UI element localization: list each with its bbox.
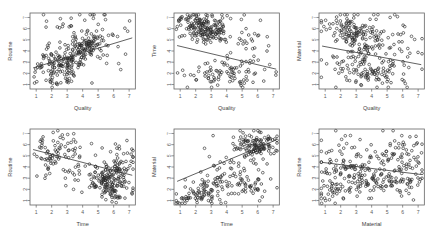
y-tick-label: 6 xyxy=(22,143,28,146)
y-tick-label: 5 xyxy=(311,38,317,41)
plot-bottom-left: 12345671234567TimeRoutine xyxy=(0,122,144,238)
plot-top-right: 12345671234567QualityMaterial xyxy=(289,6,433,122)
y-tick-label: 4 xyxy=(22,165,28,168)
plot-top-middle: 12345671234567QualityTime xyxy=(144,6,288,122)
data-points xyxy=(320,13,423,88)
plot-top-left: 12345671234567QualityRoutine xyxy=(0,6,144,122)
data-points xyxy=(175,129,278,204)
x-tick-label: 7 xyxy=(272,93,275,99)
x-tick-label: 5 xyxy=(97,93,100,99)
x-tick-label: 1 xyxy=(323,209,326,215)
x-tick-label: 1 xyxy=(179,209,182,215)
x-tick-label: 7 xyxy=(272,209,275,215)
x-tick-label: 5 xyxy=(241,209,244,215)
x-tick-label: 6 xyxy=(257,209,260,215)
y-tick-label: 5 xyxy=(167,154,173,157)
x-tick-label: 4 xyxy=(370,209,373,215)
x-tick-label: 2 xyxy=(339,93,342,99)
x-tick-label: 4 xyxy=(226,209,229,215)
y-tick-label: 6 xyxy=(167,143,173,146)
y-axis-title: Routine xyxy=(7,41,13,60)
x-tick-label: 4 xyxy=(370,93,373,99)
x-tick-label: 6 xyxy=(112,93,115,99)
y-tick-label: 7 xyxy=(311,16,317,19)
panel-top-middle: 12345671234567QualityTime xyxy=(144,6,288,122)
regression-line xyxy=(177,140,276,181)
y-tick-label: 5 xyxy=(311,154,317,157)
x-tick-label: 5 xyxy=(385,93,388,99)
y-tick-label: 1 xyxy=(311,199,317,202)
y-tick-label: 2 xyxy=(167,72,173,75)
y-tick-label: 2 xyxy=(311,72,317,75)
x-axis-title: Material xyxy=(361,221,381,227)
y-tick-label: 1 xyxy=(167,199,173,202)
data-points xyxy=(175,13,278,88)
y-tick-label: 6 xyxy=(311,27,317,30)
y-tick-label: 2 xyxy=(167,188,173,191)
x-tick-label: 6 xyxy=(401,93,404,99)
y-tick-label: 2 xyxy=(22,72,28,75)
y-tick-label: 7 xyxy=(167,16,173,19)
x-tick-label: 4 xyxy=(81,209,84,215)
y-tick-label: 6 xyxy=(22,27,28,30)
x-tick-label: 2 xyxy=(339,209,342,215)
plot-frame xyxy=(174,129,279,205)
y-tick-label: 1 xyxy=(22,83,28,86)
plot-frame xyxy=(319,13,424,89)
x-tick-label: 3 xyxy=(210,93,213,99)
x-tick-label: 1 xyxy=(179,93,182,99)
panel-bottom-middle: 12345671234567TimeMaterial xyxy=(144,122,288,238)
x-tick-label: 3 xyxy=(210,209,213,215)
plot-bottom-right: 12345671234567MaterialRoutine xyxy=(289,122,433,238)
y-tick-label: 3 xyxy=(311,61,317,64)
x-tick-label: 4 xyxy=(81,93,84,99)
data-points xyxy=(33,129,134,204)
figure-canvas: —— ———— ——— —— ———— ————— ———— — ———— 12… xyxy=(0,0,433,238)
x-tick-label: 3 xyxy=(66,209,69,215)
y-tick-label: 1 xyxy=(22,199,28,202)
x-tick-label: 6 xyxy=(401,209,404,215)
x-axis-title: Time xyxy=(77,221,89,227)
y-tick-label: 2 xyxy=(311,188,317,191)
y-tick-label: 3 xyxy=(167,177,173,180)
y-tick-label: 1 xyxy=(311,83,317,86)
y-tick-label: 3 xyxy=(22,61,28,64)
panel-bottom-right: 12345671234567MaterialRoutine xyxy=(289,122,433,238)
x-tick-label: 2 xyxy=(50,209,53,215)
y-tick-label: 4 xyxy=(311,49,317,52)
y-tick-label: 3 xyxy=(167,61,173,64)
plot-bottom-middle: 12345671234567TimeMaterial xyxy=(144,122,288,238)
x-tick-label: 4 xyxy=(226,93,229,99)
y-tick-label: 7 xyxy=(311,132,317,135)
x-tick-label: 7 xyxy=(416,93,419,99)
x-tick-label: 5 xyxy=(385,209,388,215)
y-tick-label: 1 xyxy=(167,83,173,86)
y-tick-label: 5 xyxy=(167,38,173,41)
x-tick-label: 2 xyxy=(195,209,198,215)
x-tick-label: 7 xyxy=(128,209,131,215)
y-tick-label: 3 xyxy=(311,177,317,180)
panel-bottom-left: 12345671234567TimeRoutine xyxy=(0,122,144,238)
x-tick-label: 1 xyxy=(323,93,326,99)
x-tick-label: 3 xyxy=(354,209,357,215)
y-axis-title: Routine xyxy=(296,157,302,176)
y-tick-label: 7 xyxy=(22,132,28,135)
panel-top-left: 12345671234567QualityRoutine xyxy=(0,6,144,122)
scatterplot-matrix: 12345671234567QualityRoutine 12345671234… xyxy=(0,6,433,238)
y-axis-title: Material xyxy=(296,41,302,61)
regression-line xyxy=(177,46,276,70)
y-tick-label: 3 xyxy=(22,177,28,180)
x-tick-label: 1 xyxy=(35,209,38,215)
panel-top-right: 12345671234567QualityMaterial xyxy=(289,6,433,122)
y-tick-label: 4 xyxy=(167,49,173,52)
y-tick-label: 7 xyxy=(22,16,28,19)
x-axis-title: Time xyxy=(221,221,233,227)
x-tick-label: 5 xyxy=(97,209,100,215)
y-tick-label: 4 xyxy=(167,165,173,168)
x-axis-title: Quality xyxy=(74,105,92,111)
x-axis-title: Quality xyxy=(363,105,381,111)
y-axis-title: Time xyxy=(151,45,157,57)
y-tick-label: 7 xyxy=(167,132,173,135)
y-tick-label: 5 xyxy=(22,38,28,41)
x-tick-label: 7 xyxy=(416,209,419,215)
